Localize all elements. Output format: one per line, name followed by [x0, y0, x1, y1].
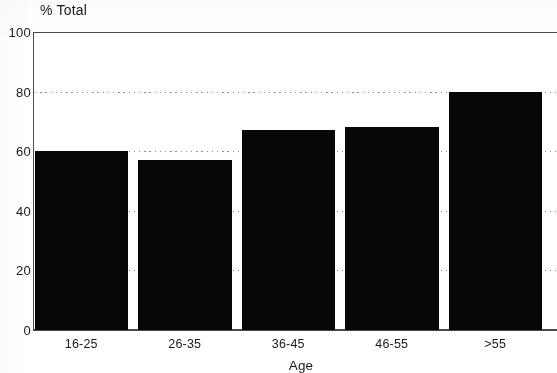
x-tick-label->55: >55 — [484, 337, 506, 351]
x-axis-title: Age — [289, 358, 314, 373]
bar-46-55 — [345, 127, 439, 330]
bars — [0, 0, 557, 373]
x-tick-label-16-25: 16-25 — [65, 337, 98, 351]
bar-36-45 — [242, 130, 336, 330]
bar-26-35 — [138, 160, 232, 330]
x-tick-label-36-45: 36-45 — [272, 337, 305, 351]
bar-16-25 — [35, 151, 129, 330]
x-tick-label-26-35: 26-35 — [168, 337, 201, 351]
bar-chart: % Total 020406080100 16-2526-3536-4546-5… — [0, 0, 557, 373]
x-tick-label-46-55: 46-55 — [375, 337, 408, 351]
bar->55 — [449, 92, 543, 330]
